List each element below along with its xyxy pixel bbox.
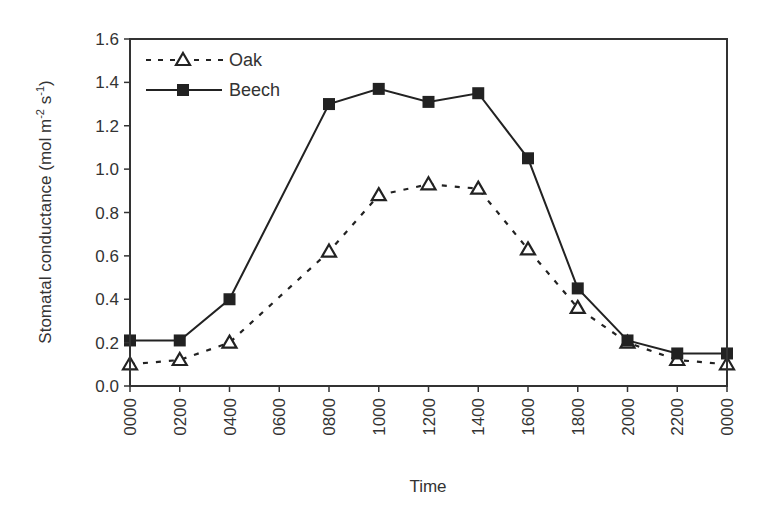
x-tick-label: 0400 [221,398,240,436]
x-tick-label: 1000 [370,398,389,436]
x-axis: 0000020004000600080010001200140016001800… [121,386,737,436]
beech-square-marker-icon [323,98,335,110]
series-line-beech [130,89,727,354]
x-tick-label: 2000 [619,398,638,436]
x-tick-label: 1200 [420,398,439,436]
x-tick-label: 0800 [320,398,339,436]
legend-item-oak: Oak [146,50,263,70]
series-beech [124,83,733,360]
beech-square-marker-icon [373,83,385,95]
legend-beech-square-icon [177,84,189,96]
y-axis-title-mid: s [36,96,55,109]
beech-square-marker-icon [572,282,584,294]
beech-square-marker-icon [522,152,534,164]
y-tick-label: 1.2 [95,117,119,136]
legend-oak-triangle-icon [176,53,190,65]
oak-triangle-marker-icon [471,182,485,194]
oak-triangle-marker-icon [422,177,436,189]
legend: Oak Beech [146,50,280,100]
beech-square-marker-icon [622,334,634,346]
y-tick-label: 0.8 [95,204,119,223]
y-tick-label: 0.6 [95,247,119,266]
x-tick-label: 0000 [121,398,140,436]
x-tick-label: 0200 [171,398,190,436]
legend-item-beech: Beech [146,80,280,100]
x-tick-label: 0000 [718,398,737,436]
beech-square-marker-icon [472,87,484,99]
legend-oak-label: Oak [229,50,263,70]
x-axis-title: Time [409,477,446,496]
series-oak [123,177,734,369]
plot-area-frame [130,39,727,386]
x-tick-label: 1400 [469,398,488,436]
y-tick-label: 1.0 [95,160,119,179]
y-axis-title: Stomatal conductance (mol m-2 s-1) [34,80,55,343]
x-tick-label: 1600 [519,398,538,436]
y-axis-title-exponent-1: -2 [34,109,46,119]
y-axis-title-end: ) [36,80,55,86]
chart-container: 0.00.20.40.60.81.01.21.41.6 000002000400… [0,0,763,512]
series-line-oak [130,184,727,364]
y-tick-label: 0.4 [95,290,119,309]
beech-square-marker-icon [224,293,236,305]
oak-triangle-marker-icon [223,336,237,348]
x-tick-label: 0600 [270,398,289,436]
y-tick-label: 0.2 [95,334,119,353]
beech-square-marker-icon [671,347,683,359]
y-axis-title-exponent-2: -1 [34,86,46,96]
y-tick-label: 1.4 [95,73,119,92]
beech-square-marker-icon [423,96,435,108]
x-tick-label: 1800 [569,398,588,436]
legend-beech-label: Beech [229,80,280,100]
plot-series [123,83,734,369]
y-tick-label: 0.0 [95,377,119,396]
y-tick-label: 1.6 [95,30,119,49]
oak-triangle-marker-icon [372,188,386,200]
beech-square-marker-icon [174,334,186,346]
y-axis-title-main: Stomatal conductance (mol m [36,119,55,344]
line-chart: 0.00.20.40.60.81.01.21.41.6 000002000400… [0,0,763,512]
oak-triangle-marker-icon [322,245,336,257]
x-tick-label: 2200 [668,398,687,436]
